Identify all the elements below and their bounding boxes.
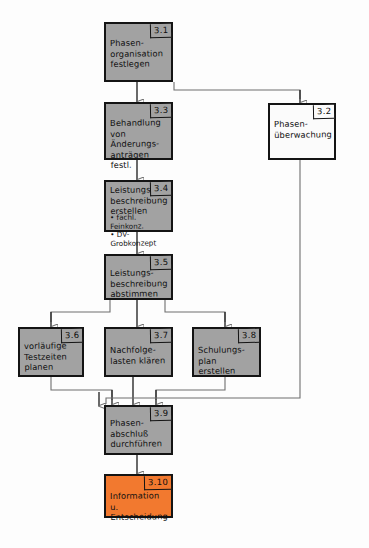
node-33-number: 3.3 [149,104,171,118]
node-38-number: 3.8 [237,329,259,343]
node-35-label: Leistungs- beschreibung abstimmen [110,267,168,300]
node-37-nachfolgelasten-klaeren[interactable]: 3.7 Nachfolge- lasten klären [104,327,173,377]
node-32-label: Phasen- überwachung [274,118,331,140]
node-34-leistungsbeschreibung-erstellen[interactable]: 3.4 Leistungs- beschreibung erstellen • … [104,180,173,232]
node-310-information-entscheidung[interactable]: 3.10 Information u. Entscheidung [104,474,173,518]
node-39-phasenabschluss[interactable]: 3.9 Phasen- abschluß durchführen [104,405,173,455]
node-31-label: Phasen- organisation festlegen [110,37,168,70]
node-36-testzeiten-planen[interactable]: 3.6 vorläufige Testzeiten planen [18,327,84,377]
node-310-number: 3.10 [144,476,171,491]
edge-38-to-39 [156,377,225,400]
edge-35-to-36 [51,300,110,322]
edge-36-to-39 [51,377,112,400]
edge-35-to-38 [165,300,225,322]
node-31-number: 3.1 [149,24,171,38]
node-34-number: 3.4 [149,182,171,196]
node-35-leistungsbeschreibung-abstimmen[interactable]: 3.5 Leistungs- beschreibung abstimmen [104,254,173,300]
node-36-label: vorläufige Testzeiten planen [24,340,79,373]
node-36-number: 3.6 [60,329,82,343]
node-37-label: Nachfolge- lasten klären [110,344,168,366]
node-39-label: Phasen- abschluß durchführen [110,417,168,450]
node-34-bullets: • fachl. Feinkonz. • DV-Grobkonzept [110,213,168,248]
node-37-number: 3.7 [149,329,171,343]
node-32-phasenueberwachung[interactable]: 3.2 Phasen- überwachung [268,103,336,160]
flowchart-diagram: 3.1 Phasen- organisation festlegen 3.2 P… [0,0,369,548]
node-38-label: Schulungs- plan erstellen [198,344,256,377]
connector-layer [0,0,369,548]
node-31-phasenorganisation[interactable]: 3.1 Phasen- organisation festlegen [104,22,173,82]
edge-31-to-32 [174,82,300,99]
node-38-schulungsplan-erstellen[interactable]: 3.8 Schulungs- plan erstellen [192,327,261,377]
node-39-number: 3.9 [149,407,171,421]
node-35-number: 3.5 [149,256,171,270]
node-33-label: Behandlung von Änderungs- anträgen festl… [110,117,169,171]
node-32-number: 3.2 [312,105,334,119]
node-33-aenderungsantraege[interactable]: 3.3 Behandlung von Änderungs- anträgen f… [104,102,173,160]
node-310-label: Information u. Entscheidung [110,490,168,523]
